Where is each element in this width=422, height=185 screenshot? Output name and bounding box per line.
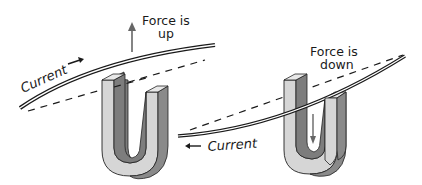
current-arrow-right-icon <box>68 57 84 64</box>
force-arrow-down <box>310 114 316 144</box>
current-label-right: Current <box>207 136 258 154</box>
panel-left: Force is up Current <box>18 13 215 179</box>
force-arrow-up <box>128 22 136 52</box>
force-label-left-line2: up <box>158 26 174 41</box>
current-label-left: Current <box>18 62 70 96</box>
current-arrow-left-icon <box>185 143 201 149</box>
force-label-right-line2: down <box>320 57 354 72</box>
panel-right: Force is down Current <box>178 44 405 176</box>
magnetic-force-diagram: Force is up Current <box>0 0 422 185</box>
horseshoe-magnet-left <box>102 72 168 179</box>
